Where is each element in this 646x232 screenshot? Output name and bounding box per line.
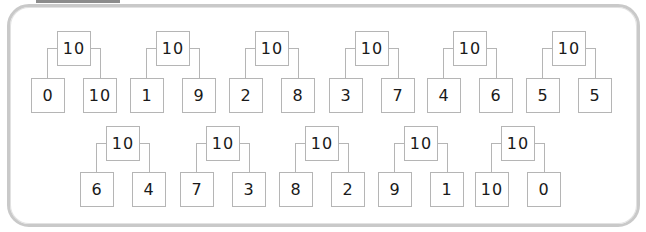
connector-line [544,143,545,172]
part-box-right: 0 [527,172,561,207]
whole-box: 10 [552,31,586,66]
connector-line [249,143,250,172]
whole-box: 10 [106,126,140,161]
connector-line [542,48,552,49]
connector-line [199,48,200,78]
connector-line [139,143,149,144]
connector-line [239,143,249,144]
connector-line [437,143,447,144]
whole-box: 10 [255,31,289,66]
connector-line [295,143,305,144]
connector-line [149,143,150,172]
whole-box: 10 [206,126,240,161]
connector-line [100,48,101,78]
connector-line [491,143,501,144]
connector-line [496,48,497,78]
part-box-right: 10 [83,78,117,113]
part-box-left: 10 [475,172,509,207]
part-box-left: 7 [180,172,214,207]
part-box-right: 3 [232,172,266,207]
whole-box: 10 [453,31,487,66]
connector-line [345,48,346,78]
part-box-right: 8 [281,78,315,113]
connector-line [542,48,543,78]
whole-box: 10 [305,126,339,161]
connector-line [189,48,199,49]
connector-line [348,143,349,172]
connector-line [443,48,453,49]
connector-line [338,143,348,144]
part-box-right: 5 [578,78,612,113]
connector-line [298,48,299,78]
connector-line [196,143,197,172]
part-box-left: 1 [130,78,164,113]
connector-line [595,48,596,78]
whole-box: 10 [501,126,535,161]
top-tab-bar [36,0,120,3]
whole-box: 10 [404,126,438,161]
part-box-right: 9 [182,78,216,113]
connector-line [447,143,448,172]
connector-line [47,48,57,49]
part-box-left: 6 [80,172,114,207]
part-box-left: 3 [329,78,363,113]
whole-box: 10 [355,31,389,66]
connector-line [146,48,156,49]
part-box-left: 9 [378,172,412,207]
connector-line [96,143,106,144]
part-box-right: 4 [132,172,166,207]
connector-line [146,48,147,78]
connector-line [398,48,399,78]
connector-line [534,143,544,144]
connector-line [196,143,206,144]
whole-box: 10 [57,31,91,66]
whole-box: 10 [156,31,190,66]
connector-line [486,48,496,49]
part-box-right: 1 [430,172,464,207]
connector-line [388,48,398,49]
connector-line [96,143,97,172]
part-box-left: 8 [279,172,313,207]
connector-line [90,48,100,49]
part-box-left: 0 [31,78,65,113]
connector-line [585,48,595,49]
connector-line [443,48,444,78]
part-box-right: 6 [479,78,513,113]
part-box-left: 2 [229,78,263,113]
connector-line [245,48,255,49]
part-box-left: 5 [526,78,560,113]
connector-line [491,143,492,172]
part-box-left: 4 [427,78,461,113]
connector-line [295,143,296,172]
part-box-right: 7 [381,78,415,113]
part-box-right: 2 [331,172,365,207]
connector-line [288,48,298,49]
connector-line [47,48,48,78]
connector-line [394,143,395,172]
connector-line [245,48,246,78]
connector-line [394,143,404,144]
connector-line [345,48,355,49]
